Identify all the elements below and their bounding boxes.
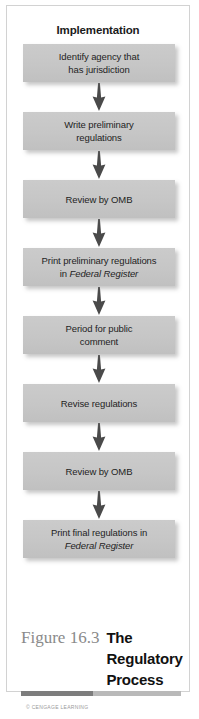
flow-arrow-down-icon bbox=[7, 82, 191, 112]
flow-arrow-down-icon bbox=[7, 218, 191, 248]
flow-node-label: Print final regulations inFederal Regist… bbox=[51, 526, 147, 552]
flow-node-label: Review by OMB bbox=[66, 193, 133, 206]
flow-node: Period for publiccomment bbox=[23, 316, 175, 354]
flow-node: Review by OMB bbox=[23, 452, 175, 490]
flow-arrow-down-icon bbox=[7, 286, 191, 316]
flow-node: Print final regulations inFederal Regist… bbox=[23, 520, 175, 558]
flow-arrow-down-icon bbox=[7, 354, 191, 384]
flow-node: Revise regulations bbox=[23, 384, 175, 422]
flow-arrow-down-icon bbox=[7, 150, 191, 180]
copyright-credit: © CENGAGE LEARNING bbox=[26, 704, 88, 710]
flow-node-label: Write preliminaryregulations bbox=[64, 118, 133, 144]
flow-arrow-down-icon bbox=[7, 422, 191, 452]
figure-frame-inner: Implementation Identify agency thathas j… bbox=[7, 6, 189, 691]
caption-rule bbox=[21, 691, 181, 696]
flow-node-label: Revise regulations bbox=[61, 397, 137, 410]
caption-rule-dark-segment bbox=[21, 691, 93, 696]
flowchart: Identify agency thathas jurisdictionWrit… bbox=[7, 44, 191, 558]
flow-node-label: Identify agency thathas jurisdiction bbox=[59, 50, 139, 76]
figure-frame: Implementation Identify agency thathas j… bbox=[6, 5, 190, 692]
flow-node: Review by OMB bbox=[23, 180, 175, 218]
flow-node-label: Print preliminary regulationsin Federal … bbox=[42, 254, 157, 280]
flow-node: Print preliminary regulationsin Federal … bbox=[23, 248, 175, 286]
flow-node-label: Review by OMB bbox=[66, 465, 133, 478]
diagram-title: Implementation bbox=[7, 24, 189, 36]
caption-row: Figure 16.3 The Regulatory Process bbox=[21, 627, 179, 690]
figure-root: Implementation Identify agency thathas j… bbox=[0, 0, 199, 719]
caption-rule-light-segment bbox=[93, 691, 181, 696]
flow-node: Identify agency thathas jurisdiction bbox=[23, 44, 175, 82]
flow-node: Write preliminaryregulations bbox=[23, 112, 175, 150]
caption-figure-number: Figure 16.3 bbox=[21, 627, 106, 648]
flow-arrow-down-icon bbox=[7, 490, 191, 520]
figure-caption: Figure 16.3 The Regulatory Process bbox=[21, 627, 179, 690]
caption-figure-title: The Regulatory Process bbox=[106, 627, 182, 690]
flow-node-label: Period for publiccomment bbox=[66, 322, 133, 348]
